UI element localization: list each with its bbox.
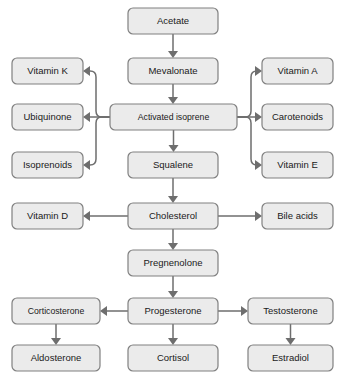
node-label: Acetate [157, 15, 189, 26]
node-label: Activated isoprene [138, 112, 210, 122]
edge-cholesterol-pregnenolone [168, 229, 178, 250]
node-activated[interactable]: Activated isoprene [110, 104, 237, 130]
edge-cholesterol-bile_acids [218, 211, 262, 221]
node-vitamin_a[interactable]: Vitamin A [262, 58, 333, 84]
node-mevalonate[interactable]: Mevalonate [128, 58, 218, 84]
node-label: Vitamin D [27, 210, 68, 221]
node-acetate[interactable]: Acetate [128, 8, 218, 34]
edge-progesterone-cortisol [168, 324, 178, 345]
edge-activated-vitamin_a [237, 66, 262, 117]
node-label: Cholesterol [149, 210, 197, 221]
edge-testosterone-estradiol [286, 324, 296, 345]
edge-pregnenolone-progesterone [168, 276, 178, 298]
node-squalene[interactable]: Squalene [128, 152, 218, 178]
node-pregnenolone[interactable]: Pregnenolone [128, 250, 218, 276]
node-label: Estradiol [272, 352, 309, 363]
edge-corticosterone-aldosterone [51, 324, 61, 345]
edge-cholesterol-vitamin_d [83, 211, 128, 221]
node-aldosterone[interactable]: Aldosterone [12, 345, 100, 371]
node-vitamin_d[interactable]: Vitamin D [12, 203, 83, 229]
node-label: Cortisol [157, 352, 189, 363]
edge-activated-squalene [169, 130, 179, 152]
node-vitamin_k[interactable]: Vitamin K [12, 58, 83, 84]
edge-activated-vitamin_k [83, 66, 110, 117]
node-label: Ubiquinone [23, 111, 71, 122]
node-label: Mevalonate [148, 65, 197, 76]
node-cortisol[interactable]: Cortisol [128, 345, 218, 371]
node-label: Aldosterone [31, 352, 82, 363]
node-ubiquinone[interactable]: Ubiquinone [12, 104, 83, 130]
node-isoprenoids[interactable]: Isoprenoids [12, 152, 83, 178]
edge-mevalonate-activated [168, 84, 178, 104]
pathway-canvas: AcetateMevalonateActivated isopreneSqual… [0, 0, 344, 381]
node-estradiol[interactable]: Estradiol [248, 345, 333, 371]
node-label: Carotenoids [272, 111, 323, 122]
node-carotenoids[interactable]: Carotenoids [262, 104, 333, 130]
node-label: Bile acids [277, 210, 318, 221]
node-progesterone[interactable]: Progesterone [128, 298, 218, 324]
node-label: Vitamin K [27, 65, 68, 76]
node-label: Corticosterone [28, 306, 85, 316]
node-bile_acids[interactable]: Bile acids [262, 203, 333, 229]
node-label: Squalene [153, 159, 193, 170]
node-label: Testosterone [263, 305, 317, 316]
node-label: Isoprenoids [23, 159, 72, 170]
edge-acetate-mevalonate [168, 34, 178, 58]
edge-activated-vitamin_e [237, 117, 262, 170]
pathway-diagram: AcetateMevalonateActivated isopreneSqual… [0, 0, 344, 381]
node-vitamin_e[interactable]: Vitamin E [262, 152, 333, 178]
node-testosterone[interactable]: Testosterone [248, 298, 333, 324]
node-label: Progesterone [144, 305, 201, 316]
edge-squalene-cholesterol [168, 178, 178, 203]
node-label: Vitamin E [277, 159, 317, 170]
node-corticosterone[interactable]: Corticosterone [12, 298, 100, 324]
node-cholesterol[interactable]: Cholesterol [128, 203, 218, 229]
edge-activated-isoprenoids [83, 117, 110, 170]
node-label: Pregnenolone [143, 257, 202, 268]
edge-progesterone-testosterone [218, 306, 248, 316]
node-label: Vitamin A [278, 65, 319, 76]
edge-progesterone-corticosterone [100, 306, 128, 316]
